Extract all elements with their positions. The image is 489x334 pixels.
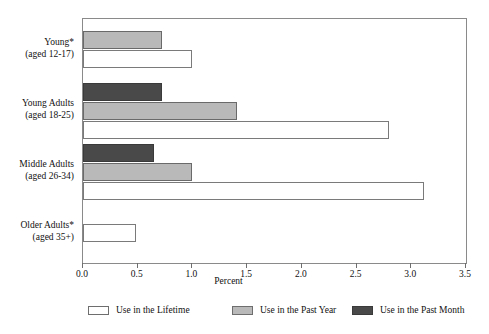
category-label-0: Young*(aged 12-17) [25, 37, 74, 60]
bar-1-use-in-the-past-year [83, 102, 237, 120]
x-tick-0 [82, 263, 83, 268]
bar-2-use-in-the-past-year [83, 163, 192, 181]
legend-label: Use in the Past Month [380, 305, 464, 316]
bar-1-use-in-the-lifetime [83, 121, 389, 139]
x-tick-1 [137, 263, 138, 268]
legend-item-lifetime[interactable]: Use in the Lifetime [88, 303, 190, 317]
x-tick-5 [356, 263, 357, 268]
legend-item-pastmonth[interactable]: Use in the Past Month [352, 303, 464, 317]
legend-label: Use in the Lifetime [116, 305, 190, 316]
x-tick-4 [301, 263, 302, 268]
bar-0-use-in-the-past-year [83, 31, 162, 49]
category-label-line2: (aged 12-17) [25, 49, 74, 61]
category-label-line1: Young Adults [22, 98, 74, 110]
plot-area [82, 18, 467, 264]
legend-swatch-pastmonth-icon [352, 306, 373, 315]
x-tick-3 [246, 263, 247, 268]
bar-0-use-in-the-lifetime [83, 50, 192, 68]
legend-swatch-lifetime-icon [88, 306, 109, 315]
category-label-3: Older Adults*(aged 35+) [20, 220, 74, 243]
legend-label: Use in the Past Year [260, 305, 336, 316]
category-label-line2: (aged 26-34) [19, 171, 74, 183]
bar-2-use-in-the-lifetime [83, 182, 424, 200]
category-label-line1: Older Adults* [20, 220, 74, 232]
category-label-line2: (aged 18-25) [22, 110, 74, 122]
chart-legend: Use in the LifetimeUse in the Past YearU… [0, 303, 489, 321]
bar-2-use-in-the-past-month [83, 144, 154, 162]
x-tick-2 [191, 263, 192, 268]
category-label-line1: Middle Adults [19, 159, 74, 171]
category-label-1: Young Adults(aged 18-25) [22, 98, 74, 121]
bar-chart-figure: Young*(aged 12-17)Young Adults(aged 18-2… [0, 0, 489, 334]
category-label-line1: Young* [25, 37, 74, 49]
category-label-line2: (aged 35+) [20, 232, 74, 244]
legend-swatch-pastyear-icon [232, 306, 253, 315]
category-label-2: Middle Adults(aged 26-34) [19, 159, 74, 182]
x-tick-6 [410, 263, 411, 268]
x-tick-7 [465, 263, 466, 268]
x-axis-title-text: Percent [214, 276, 243, 286]
x-axis-title: Percent [0, 276, 489, 286]
bar-1-use-in-the-past-month [83, 83, 162, 101]
bar-3-use-in-the-lifetime [83, 224, 136, 242]
category-axis-labels: Young*(aged 12-17)Young Adults(aged 18-2… [0, 18, 78, 262]
legend-item-pastyear[interactable]: Use in the Past Year [232, 303, 336, 317]
